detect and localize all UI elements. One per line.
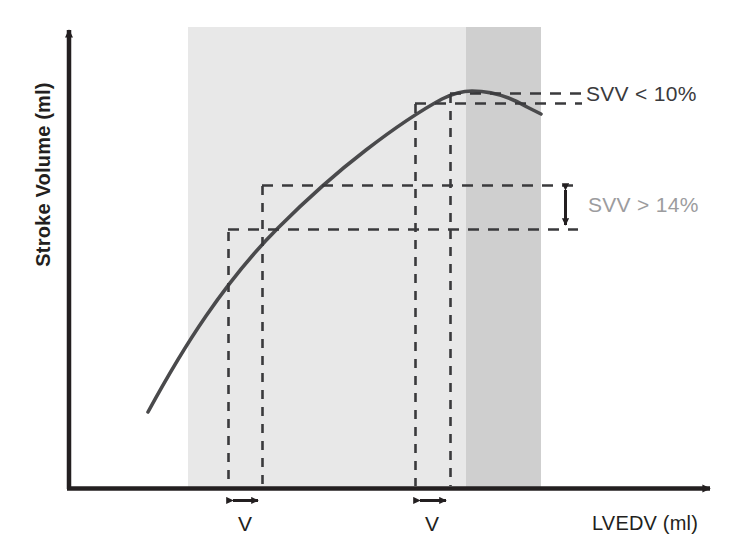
svv-low-annotation: SVV < 10% (586, 82, 697, 106)
v-label-left: V (215, 512, 275, 536)
svv-high-annotation: SVV > 14% (588, 193, 699, 217)
x-axis-title: LVEDV (ml) (592, 512, 698, 535)
y-axis-title: Stroke Volume (ml) (32, 65, 55, 285)
v-label-right: V (402, 512, 462, 536)
figure-canvas: Stroke Volume (ml) LVEDV (ml) SVV < 10% … (0, 0, 744, 558)
